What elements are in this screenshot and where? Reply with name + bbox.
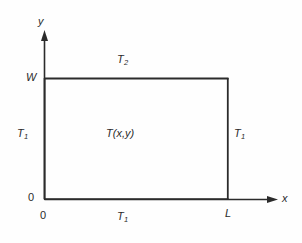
boundary-label-right-base: T bbox=[234, 127, 241, 139]
domain-rectangle-group bbox=[44, 78, 229, 200]
x-axis-label: x bbox=[282, 193, 288, 204]
boundary-label-right-subscript: 1 bbox=[241, 132, 245, 141]
x-axis-origin-label: 0 bbox=[40, 210, 46, 221]
y-axis-tick-label-w: W bbox=[26, 72, 36, 83]
boundary-label-left: T1 bbox=[17, 128, 28, 139]
boundary-label-left-base: T bbox=[17, 127, 24, 139]
y-axis-origin-label: 0 bbox=[28, 192, 34, 203]
diagram-vector-layer bbox=[0, 0, 302, 243]
boundary-label-bottom-base: T bbox=[117, 210, 124, 222]
boundary-label-left-subscript: 1 bbox=[24, 132, 28, 141]
boundary-label-top-subscript: 2 bbox=[124, 58, 128, 67]
interior-field-label: T(x,y) bbox=[106, 128, 134, 139]
boundary-label-bottom: T1 bbox=[117, 211, 128, 222]
x-axis-arrowhead-icon bbox=[267, 196, 278, 203]
x-axis-tick-label-l: L bbox=[225, 208, 231, 219]
boundary-label-top: T2 bbox=[117, 54, 128, 65]
y-axis-arrowhead-icon bbox=[41, 30, 48, 41]
y-axis-label: y bbox=[38, 16, 44, 27]
diagram-canvas: y x W 0 0 L T2 T1 T1 T1 T(x,y) bbox=[0, 0, 302, 243]
boundary-label-bottom-subscript: 1 bbox=[124, 215, 128, 224]
boundary-label-top-base: T bbox=[117, 53, 124, 65]
boundary-label-right: T1 bbox=[234, 128, 245, 139]
